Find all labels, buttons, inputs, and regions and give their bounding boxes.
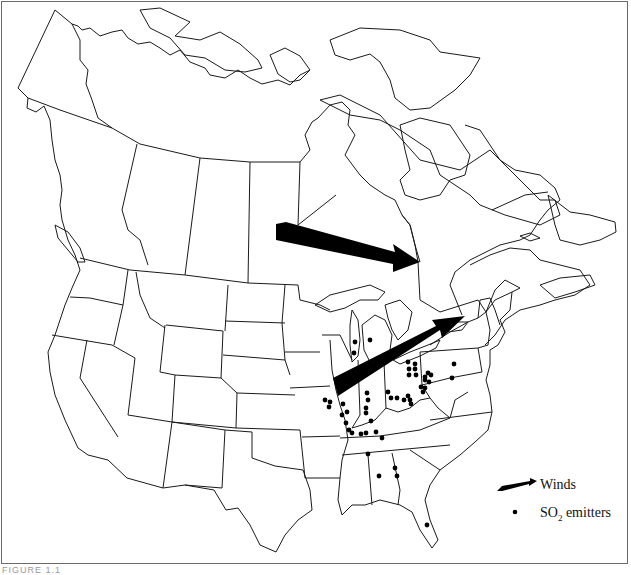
so2-emitter-dot — [341, 402, 346, 407]
victoria-island — [140, 8, 262, 72]
so2-emitter-dot — [345, 410, 350, 415]
so2-emitter-dot — [395, 396, 400, 401]
in-oh — [384, 362, 386, 408]
forty-ninth-parallel — [80, 258, 330, 310]
so2-emitter-dot — [395, 474, 400, 479]
legend-emitters-label: SO2 emitters — [540, 505, 611, 523]
so2-emitter-dot — [386, 390, 391, 395]
legend: Winds SO2 emitters — [495, 470, 625, 540]
so2-emitter-dot — [365, 391, 370, 396]
so2-emitter-dot — [364, 431, 369, 436]
so2-emitter-dot — [323, 398, 328, 403]
nv-ut-border — [128, 358, 135, 415]
wv-va — [422, 385, 468, 418]
ks-ok — [236, 428, 300, 430]
az-nm — [108, 415, 172, 488]
sd-ne — [223, 355, 290, 375]
bc-alberta-border — [122, 144, 148, 265]
legend-winds-label: Winds — [540, 477, 576, 493]
ia-mo — [290, 386, 330, 388]
so2-emitter-dot — [389, 396, 394, 401]
ms-al — [368, 455, 372, 505]
ca-nv-border — [80, 340, 118, 437]
us-east-coast — [342, 292, 512, 548]
tn-south — [342, 445, 450, 455]
newfoundland — [548, 195, 616, 245]
yukon-nwt-border — [72, 24, 112, 128]
lake-huron — [385, 300, 412, 340]
wa-or-border — [70, 297, 123, 305]
ne-ks — [237, 393, 295, 395]
so2-emitter-dot — [368, 338, 373, 343]
ut-wy-border — [160, 325, 175, 375]
wy — [166, 325, 223, 378]
so2-emitter-dot — [427, 380, 432, 385]
oh-pa — [420, 352, 422, 385]
so2-emitter-dot — [425, 523, 430, 528]
so2-emitter-dot — [340, 413, 345, 418]
so2-emitter-dot — [377, 474, 382, 479]
wi-il — [322, 335, 352, 360]
wind-arrow-ohio-valley — [333, 316, 465, 396]
arctic-coast — [55, 10, 310, 85]
so2-emitter-dot — [350, 431, 355, 436]
alaska-yukon-outline — [18, 10, 55, 112]
so2-emitter-dot — [366, 398, 371, 403]
so2-emitter-dot — [366, 452, 371, 457]
so2-emitter-dot — [421, 390, 426, 395]
so2-emitter-dot — [393, 466, 398, 471]
nm — [163, 422, 225, 488]
wind-arrow-central-canada — [276, 222, 420, 272]
figure-caption: FIGURE 1.1 — [2, 565, 61, 575]
so2-emitter-dot — [414, 373, 419, 378]
alberta-sask-border — [185, 158, 200, 275]
ellesmere-island — [330, 28, 480, 110]
bc-coast — [44, 106, 80, 270]
mo-ar — [302, 436, 340, 437]
nd-sd — [225, 321, 285, 323]
labrador-coast — [450, 125, 560, 315]
so2-emitter-dot — [409, 402, 414, 407]
al-ga — [392, 453, 400, 505]
new-england — [478, 298, 500, 325]
nova-scotia — [540, 275, 595, 298]
so2-emitter-dot — [328, 400, 333, 405]
or-ca-nv-border — [52, 335, 135, 358]
so2-emitter-dot — [408, 398, 413, 403]
so2-emitter-dots — [323, 338, 457, 528]
so2-emitter-dot — [353, 340, 358, 345]
so2-emitter-dot — [406, 360, 411, 365]
mt-dakotas — [225, 285, 228, 331]
mississippi-river — [330, 340, 348, 515]
so2-emitter-dot — [380, 436, 385, 441]
us-west-coast — [48, 270, 108, 460]
so2-emitter-dot — [402, 398, 407, 403]
so2-emitter-dot — [407, 373, 412, 378]
so2-emitter-dot — [364, 406, 369, 411]
arctic-island-2 — [270, 48, 310, 82]
so2-emitter-dot — [413, 362, 418, 367]
manitoba-ontario-border — [298, 162, 336, 225]
so2-emitter-dot — [344, 421, 349, 426]
so2-emitter-dot — [452, 362, 457, 367]
so2-emitter-dot — [429, 373, 434, 378]
so2-emitter-dot — [369, 419, 374, 424]
so2-emitter-dot — [419, 385, 424, 390]
labrador-border — [492, 192, 548, 210]
so2-emitter-dot — [327, 405, 332, 410]
baffin-island — [320, 95, 560, 225]
so2-emitter-dot — [352, 351, 357, 356]
id-border — [114, 270, 128, 345]
st-lawrence — [470, 248, 590, 345]
va-nc — [430, 412, 492, 420]
id-mt-border — [136, 272, 165, 328]
sixtieth-parallel — [28, 98, 300, 162]
so2-emitter-dot — [364, 411, 369, 416]
texas — [185, 430, 312, 552]
so2-emitter-dot — [413, 367, 418, 372]
ga-sc — [410, 450, 440, 470]
so2-emitter-dot — [450, 376, 455, 381]
sask-manitoba-border — [248, 162, 250, 283]
so2-emitter-dot — [407, 367, 412, 372]
so2-emitter-dot — [374, 430, 379, 435]
